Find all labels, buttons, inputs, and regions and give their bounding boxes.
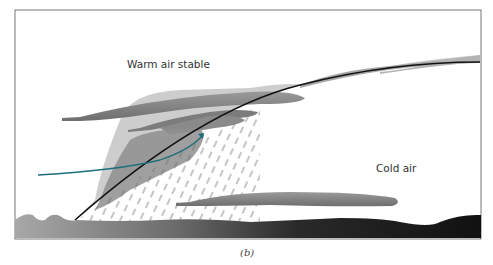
diagram-canvas	[0, 0, 493, 265]
cold-air-label: Cold air	[376, 162, 416, 174]
figure-caption: (b)	[240, 247, 254, 258]
warm-air-label: Warm air stable	[127, 58, 210, 70]
warm-front-diagram: Warm air stable Cold air (b)	[0, 0, 493, 265]
